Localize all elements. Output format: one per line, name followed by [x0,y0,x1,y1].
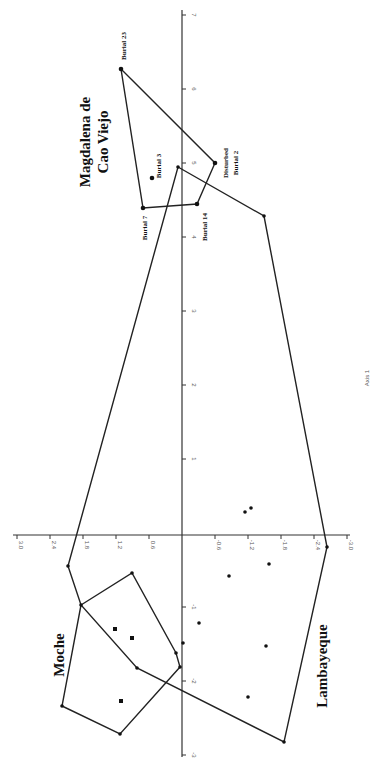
axis-1-tick-label: 6 [191,87,197,91]
axis-2-tick-label: -0.6 [216,540,222,551]
burial-3-label: Burial 3 [155,153,163,178]
axis-2-tick-label: -1.8 [282,540,288,551]
axis-1-tick-label: 5 [191,161,197,165]
disturbed-burial-2-label: Disturbed Burial 2 [222,148,240,178]
magdalena-hull [121,69,215,208]
axis-1-tick-label: 3 [191,309,197,313]
axis-1-tick-label: -1 [191,604,197,610]
svg-text:Magdalena de: Magdalena de [77,96,93,187]
axis-2-tick-label: 1.8 [84,541,90,550]
lambayeque-hull [68,167,327,742]
axis-2-ticks: 3.0 2.4 1.8 1.2 0.6 -0.6 -1.2 -1.8 -2.4 … [17,535,354,551]
scatter-plot: -3 -2 -1 1 2 3 4 5 6 7 3.0 2.4 1.8 1.2 0… [0,0,373,780]
axis-2-tick-label: 3.0 [18,541,24,550]
axis-1-tick-label: -3 [191,752,197,758]
axis-1-tick-label: 7 [191,13,197,17]
axis-1-ticks: -3 -2 -1 1 2 3 4 5 6 7 [182,13,197,758]
magdalena-points [119,67,218,211]
burial-7-label: Burial 7 [141,215,149,240]
lambayeque-points [60,165,329,744]
moche-label: Moche [51,633,67,677]
axis-1-tick-label: 1 [191,457,197,461]
axis-2-tick-label: -3.0 [348,540,354,551]
axis-2-tick-label: -2.4 [315,540,321,551]
burial-23-label: Burial 23 [120,32,128,60]
axis-1-tick-label: 2 [191,383,197,387]
svg-text:Cao Viejo: Cao Viejo [95,111,111,174]
magdalena-label: Magdalena de Cao Viejo [77,96,111,187]
axis-2-tick-label: 2.4 [51,541,57,550]
axis-1-tick-label: 4 [191,235,197,239]
moche-points [113,627,134,703]
moche-hull [62,573,180,734]
axis-1-title: Axis 1 [364,369,370,386]
svg-text:Disturbed: Disturbed [222,148,230,178]
burial-14-label: Burial 14 [201,213,209,241]
svg-text:Burial 2: Burial 2 [232,150,240,175]
axis-2-tick-label: 1.2 [117,541,123,550]
axis-1-tick-label: -2 [191,678,197,684]
axis-2-tick-label: 0.6 [150,541,156,550]
axis-2-tick-label: -1.2 [249,540,255,551]
lambayeque-label: Lambayeque [314,624,330,708]
